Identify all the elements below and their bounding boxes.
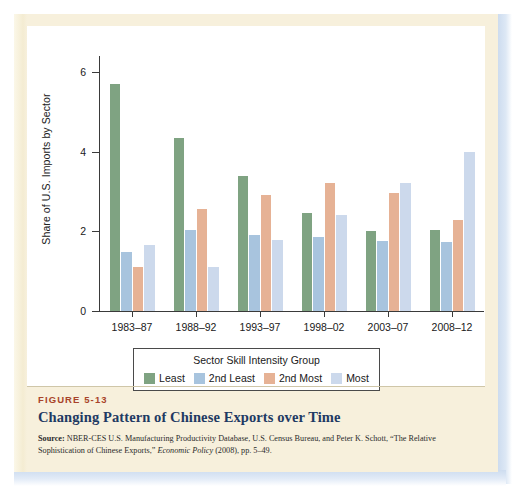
bar <box>185 230 196 311</box>
x-tick-label: 1998–02 <box>304 321 345 333</box>
legend-item-label: Least <box>159 372 185 384</box>
legend-color-swatch <box>264 373 275 384</box>
caption-block: FIGURE 5-13 Changing Pattern of Chinese … <box>38 394 488 458</box>
x-axis-line <box>99 311 484 312</box>
bar <box>261 195 272 311</box>
bar <box>133 267 144 311</box>
x-tick-mark <box>388 311 389 317</box>
bar <box>389 193 400 311</box>
bar <box>313 237 324 311</box>
bar <box>110 84 121 311</box>
bar <box>249 235 260 312</box>
bar <box>238 176 249 311</box>
x-tick-mark <box>132 311 133 317</box>
x-tick-label: 2008–12 <box>432 321 473 333</box>
y-tick-label: 0 <box>60 305 86 317</box>
bar <box>121 252 132 311</box>
x-tick-label: 1993–97 <box>240 321 281 333</box>
legend-title: Sector Skill Intensity Group <box>142 354 371 366</box>
bar <box>208 267 219 311</box>
legend-color-swatch <box>331 373 342 384</box>
source-label: Source: <box>38 434 65 443</box>
page-edge-shadow-bottom <box>14 470 506 486</box>
legend-color-swatch <box>194 373 205 384</box>
textbook-page: Share of U.S. Imports by Sector 0246 198… <box>14 14 498 472</box>
x-tick-mark <box>452 311 453 317</box>
source-text-3: (2008), pp. 5–49. <box>213 446 272 455</box>
bar-series-container <box>100 56 484 311</box>
bar <box>430 230 441 311</box>
figure-number: FIGURE 5-13 <box>38 394 488 405</box>
x-tick-label: 2003–07 <box>368 321 409 333</box>
y-tick-label: 6 <box>60 66 86 78</box>
chart-legend: Sector Skill Intensity Group Least2nd Le… <box>133 348 380 391</box>
bar <box>336 215 347 311</box>
source-note: Source: NBER-CES U.S. Manufacturing Prod… <box>38 433 468 458</box>
caption-divider <box>27 386 485 387</box>
source-text-1: NBER-CES U.S. Manufacturing Productivity… <box>65 434 388 443</box>
legend-item-label: 2nd Most <box>279 372 322 384</box>
bar <box>272 240 283 311</box>
chart-panel: Share of U.S. Imports by Sector 0246 198… <box>27 26 485 386</box>
legend-item-label: 2nd Least <box>209 372 255 384</box>
legend-item: 2nd Most <box>264 372 322 384</box>
x-tick-mark <box>196 311 197 317</box>
bar <box>464 152 475 311</box>
bar <box>302 213 313 311</box>
legend-item: Least <box>144 372 185 384</box>
page-edge-shadow-right <box>498 14 512 484</box>
legend-item: 2nd Least <box>194 372 255 384</box>
x-tick-mark <box>260 311 261 317</box>
bar <box>325 183 336 311</box>
plot-area: Share of U.S. Imports by Sector 0246 198… <box>27 26 485 326</box>
legend-color-swatch <box>144 373 155 384</box>
bar <box>197 209 208 311</box>
bar <box>453 220 464 311</box>
figure-title: Changing Pattern of Chinese Exports over… <box>38 409 488 426</box>
y-tick-label: 2 <box>60 225 86 237</box>
y-tick-label: 4 <box>60 146 86 158</box>
x-tick-label: 1988–92 <box>176 321 217 333</box>
y-axis-label-text: Share of U.S. Imports by Sector <box>40 93 52 244</box>
y-axis-label: Share of U.S. Imports by Sector <box>37 46 55 291</box>
bar <box>441 242 452 311</box>
bar <box>377 241 388 311</box>
x-tick-mark <box>324 311 325 317</box>
bar <box>366 231 377 311</box>
bar <box>144 245 155 311</box>
legend-item: Most <box>331 372 369 384</box>
legend-item-list: Least2nd Least2nd MostMost <box>142 372 371 384</box>
bar <box>174 138 185 311</box>
figure-root: Share of U.S. Imports by Sector 0246 198… <box>0 0 519 499</box>
bar <box>400 183 411 311</box>
legend-item-label: Most <box>346 372 369 384</box>
source-italic-journal: Economic Policy <box>157 446 213 455</box>
x-tick-label: 1983–87 <box>112 321 153 333</box>
